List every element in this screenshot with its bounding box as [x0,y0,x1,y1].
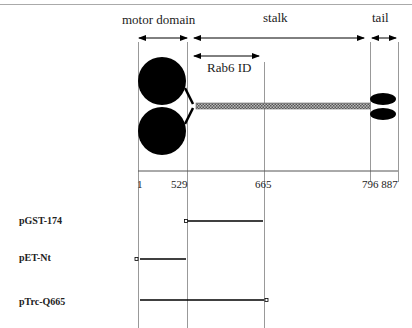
tick-665: 665 [255,178,272,190]
tick-529: 529 [171,178,188,190]
construct-label-ptrc-q665: pTrc-Q665 [19,296,65,307]
tick-1: 1 [137,178,143,190]
construct-label-pgst-174: pGST-174 [19,215,62,226]
construct-label-pet-nt: pET-Nt [19,252,51,263]
tick-796-887: 796 887 [362,178,398,190]
domain-graphic [0,0,412,328]
